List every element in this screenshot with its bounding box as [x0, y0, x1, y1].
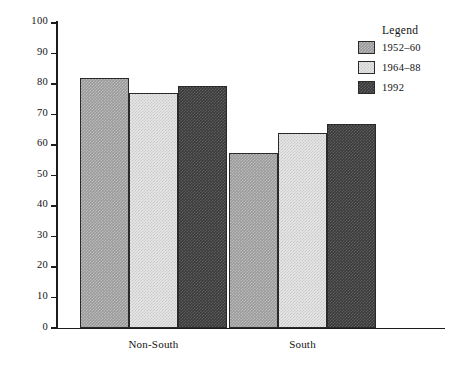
y-axis-tick-mark [51, 266, 57, 268]
y-axis-tick-mark [51, 53, 57, 55]
y-axis-tick-label: 70 [37, 107, 48, 118]
y-axis-tick-mark [51, 205, 57, 207]
bar [178, 86, 227, 329]
y-axis-tick-label: 80 [37, 76, 48, 87]
y-axis-tick-label: 10 [37, 290, 48, 301]
y-axis-tick-label: 100 [31, 15, 48, 26]
x-axis-category-label: Non-South [80, 338, 227, 350]
bar-chart-figure: 0102030405060708090100 Non-SouthSouth Le… [0, 0, 459, 369]
legend-item-label: 1964–88 [382, 62, 421, 73]
y-axis-tick-label: 60 [37, 137, 48, 148]
bar [129, 93, 178, 328]
legend-item: 1992 [358, 79, 453, 96]
legend-swatch [358, 41, 375, 54]
legend: Legend 1952–601964–881992 [358, 24, 453, 99]
legend-item: 1952–60 [358, 39, 453, 56]
bar [278, 133, 327, 328]
bar [80, 78, 129, 328]
y-axis-tick-mark [51, 327, 57, 329]
y-axis-tick-mark [51, 175, 57, 177]
bar [229, 153, 278, 328]
legend-title: Legend [382, 24, 453, 36]
x-axis-category-label: South [229, 338, 376, 350]
y-axis-tick-mark [51, 22, 57, 24]
bar-group [80, 23, 227, 328]
legend-item-label: 1992 [382, 82, 404, 93]
y-axis-tick-mark [51, 114, 57, 116]
y-axis-tick-label: 50 [37, 168, 48, 179]
y-axis-tick-label: 20 [37, 259, 48, 270]
y-axis-tick-mark [51, 83, 57, 85]
legend-swatch [358, 61, 375, 74]
bar-group [229, 23, 376, 328]
legend-item: 1964–88 [358, 59, 453, 76]
bar [327, 124, 376, 328]
legend-swatch [358, 81, 375, 94]
y-axis-tick-label: 30 [37, 229, 48, 240]
y-axis-tick-label: 90 [37, 46, 48, 57]
legend-rows: 1952–601964–881992 [358, 39, 453, 96]
y-axis-tick-label: 40 [37, 198, 48, 209]
y-axis-tick-mark [51, 144, 57, 146]
y-axis-tick-mark [51, 297, 57, 299]
legend-item-label: 1952–60 [382, 42, 421, 53]
y-axis-tick-mark [51, 236, 57, 238]
y-axis-tick-label: 0 [42, 321, 48, 332]
